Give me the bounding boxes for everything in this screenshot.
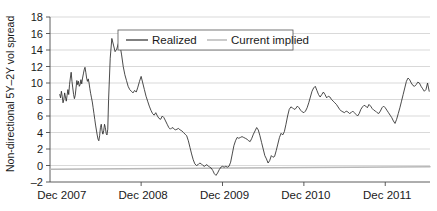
y-tick-label: 16 [31,28,43,40]
y-tick-label: 0 [37,160,43,172]
y-tick-label: –2 [31,176,43,188]
x-axis-ticks: Dec 2007Dec 2008Dec 2009Dec 2010Dec 2011 [37,182,411,201]
y-tick-label: 6 [37,110,43,122]
y-tick-label: 4 [37,127,43,139]
y-tick-label: 8 [37,94,43,106]
series-realized [60,38,429,175]
y-axis-title: Non-directional 5Y–2Y vol spread [4,16,16,172]
x-tick-label: Dec 2007 [37,189,86,201]
x-tick-label: Dec 2008 [119,189,168,201]
series-current-implied [50,167,430,169]
y-axis-ticks: –2024681012141618 [31,11,50,188]
y-tick-label: 14 [31,44,43,56]
line-chart: –2024681012141618 Dec 2007Dec 2008Dec 20… [0,0,437,211]
chart-legend: Realized Current implied [118,30,309,50]
chart-container: –2024681012141618 Dec 2007Dec 2008Dec 20… [0,0,437,211]
x-tick-label: Dec 2011 [363,189,411,201]
plot-series [50,38,430,175]
y-tick-label: 2 [37,143,43,155]
y-tick-label: 18 [31,11,43,23]
y-tick-label: 10 [31,77,43,89]
legend-label-current-implied: Current implied [231,34,309,46]
x-tick-label: Dec 2010 [281,189,330,201]
x-tick-label: Dec 2009 [200,189,249,201]
legend-label-realized: Realized [152,34,197,46]
y-tick-label: 12 [31,61,43,73]
